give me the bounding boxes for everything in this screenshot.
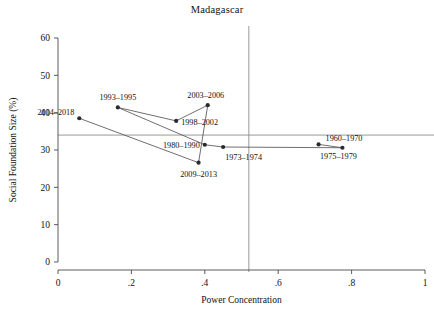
x-tick-label: 0 (56, 278, 61, 288)
point-label: 1998–2002 (181, 118, 218, 127)
y-tick-label: 20 (41, 183, 51, 193)
y-tick-label: 60 (41, 33, 51, 43)
data-point (206, 103, 210, 107)
x-axis-title: Power Concentration (201, 295, 282, 305)
x-tick-label: .2 (128, 278, 135, 288)
data-point (316, 142, 320, 146)
data-point (340, 146, 344, 150)
point-label: 1993–1995 (99, 93, 136, 102)
data-point (203, 143, 207, 147)
data-point (196, 161, 200, 165)
series-line (79, 105, 342, 162)
point-label: 1975–1979 (320, 152, 357, 161)
point-label: 2009–2013 (180, 170, 217, 179)
data-point (116, 105, 120, 109)
y-tick-label: 50 (41, 71, 51, 81)
y-axis-title: Social Foundation Size (%) (8, 98, 19, 203)
point-label: 1980–1990 (163, 141, 200, 150)
chart-figure: Madagascar 01020304050600.2.4.6.81 1960–… (0, 0, 434, 311)
data-points (77, 103, 344, 165)
x-tick-label: 1 (423, 278, 428, 288)
point-label: 1973–1974 (225, 153, 262, 162)
trajectory-path (79, 105, 342, 162)
data-point (77, 116, 81, 120)
x-tick-label: .6 (275, 278, 282, 288)
data-point (174, 119, 178, 123)
y-tick-label: 0 (45, 257, 50, 267)
point-label: 2014–2018 (37, 108, 74, 117)
x-tick-label: .8 (348, 278, 355, 288)
scatter-plot: 01020304050600.2.4.6.81 1960–19701975–19… (0, 0, 434, 311)
point-label: 1960–1970 (326, 134, 363, 143)
reference-lines (58, 26, 434, 272)
y-tick-label: 10 (41, 220, 51, 230)
y-tick-label: 30 (41, 145, 51, 155)
point-label: 2003–2006 (187, 91, 224, 100)
x-tick-label: .4 (201, 278, 208, 288)
data-point (221, 145, 225, 149)
